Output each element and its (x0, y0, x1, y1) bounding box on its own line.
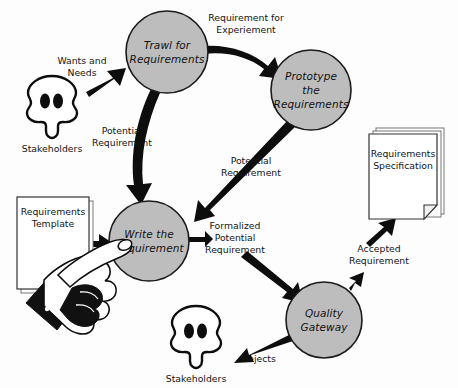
stakeholders-bottom-eye-right (197, 324, 207, 339)
node-quality-circle[interactable] (286, 282, 362, 358)
stakeholders-top-label: Stakeholders (22, 143, 83, 154)
node-write-label-line-0: Write the (124, 228, 173, 240)
label-potential-requirement-right: Potential Requirement (221, 155, 281, 178)
stakeholders-bottom-eye-left (184, 324, 194, 339)
label-accepted-requirement: Accepted Requirement (349, 243, 409, 266)
potential-requirement-right-line-0: Potential (231, 155, 272, 166)
formalized-potential-requirement-line-1: Potential (215, 232, 256, 243)
requirements-template-label-line-0: Requirements (21, 206, 86, 217)
actor-stakeholders-top[interactable]: Stakeholders (22, 76, 83, 154)
requirements-template-label-line-1: Template (31, 218, 75, 229)
accepted-requirement-line-0: Accepted (357, 243, 400, 254)
label-formalized-potential-requirement: Formalized Potential Requirement (205, 220, 265, 255)
node-prototype-the-requirements[interactable]: Prototype the Requirements (271, 50, 351, 130)
wants-and-needs-line-0: Wants and (57, 55, 106, 66)
stakeholders-bottom-label: Stakeholders (166, 373, 227, 384)
node-quality-label-line-1: Gateway (300, 321, 348, 333)
potential-requirement-left-line-1: Requirement (92, 137, 152, 148)
stakeholders-top-eye-left (40, 94, 50, 109)
node-quality-label-line-0: Quality (305, 307, 344, 319)
requirement-for-experiement-line-0: Requirement for (208, 12, 284, 23)
formalized-potential-requirement-line-0: Formalized (210, 220, 261, 231)
node-prototype-label-line-0: Prototype (285, 70, 337, 82)
requirements-specification-label-line-1: Specification (373, 160, 433, 171)
label-requirement-for-experiement: Requirement for Experiement (208, 12, 284, 35)
label-rejects: Rejects (242, 353, 276, 364)
diagram-canvas: Trawl for Requirements Prototype the Req… (0, 0, 458, 388)
node-prototype-label-line-1: the (302, 84, 320, 96)
artifact-requirements-specification[interactable]: Requirements Specification (369, 128, 444, 219)
accepted-requirement-line-1: Requirement (349, 255, 409, 266)
node-trawl-circle[interactable] (126, 11, 208, 93)
node-trawl-label-line-1: Requirements (130, 53, 205, 65)
node-prototype-label-line-2: Requirements (274, 98, 349, 110)
node-trawl-for-requirements[interactable]: Trawl for Requirements (126, 11, 208, 93)
rejects-line-0: Rejects (242, 353, 276, 364)
requirements-specification-label-line-0: Requirements (371, 148, 436, 159)
stakeholders-top-eye-right (53, 94, 63, 109)
formalized-potential-requirement-line-2: Requirement (205, 244, 265, 255)
requirements-process-diagram: Trawl for Requirements Prototype the Req… (0, 0, 458, 388)
hand-cuff-button (45, 307, 49, 311)
node-quality-gateway[interactable]: Quality Gateway (286, 282, 362, 358)
label-wants-and-needs: Wants and Needs (57, 55, 106, 78)
stakeholders-bottom-head-icon (171, 306, 221, 368)
wants-and-needs-line-1: Needs (67, 67, 96, 78)
requirement-for-experiement-line-1: Experiement (216, 24, 276, 35)
potential-requirement-right-line-1: Requirement (221, 167, 281, 178)
node-trawl-label-line-0: Trawl for (144, 39, 191, 51)
stakeholders-top-head-icon (27, 76, 77, 138)
potential-requirement-left-line-0: Potential (102, 125, 143, 136)
actor-stakeholders-bottom[interactable]: Stakeholders (166, 306, 227, 384)
arrow-requirement-for-experiement (202, 46, 282, 79)
